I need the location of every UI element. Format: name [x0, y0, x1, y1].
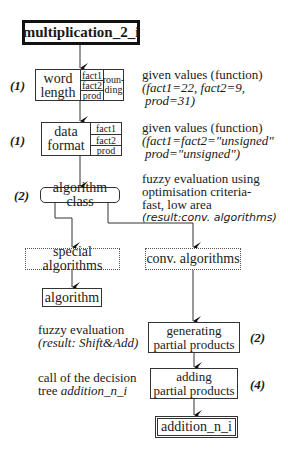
- word-length-label-1: word: [36, 72, 80, 86]
- generating-note: fuzzy evaluation (result: Shift&Add): [38, 323, 138, 349]
- word-length-note: given values (function) (fact1=22, fact2…: [142, 68, 263, 107]
- step-label-algorithm-class: (2): [14, 188, 29, 204]
- data-format-field-fact1: fact1: [90, 123, 121, 134]
- generating-partial-products-node: generating partial products: [148, 322, 240, 353]
- step-label-adding: (4): [250, 377, 265, 393]
- word-length-field-fact2: fact2: [80, 80, 103, 90]
- word-length-rounding: roun- ding: [103, 70, 123, 100]
- algorithm-class-node: algorithm class: [40, 187, 120, 203]
- algorithm-class-note: fuzzy evaluation using optimisation crit…: [142, 172, 277, 224]
- word-length-field-prod: prod: [80, 90, 103, 100]
- conv-algorithms-node: conv. algorithms: [145, 248, 241, 270]
- data-format-note: given values (function) (fact1=fact2="un…: [142, 121, 274, 160]
- algorithm-node: algorithm: [42, 288, 102, 307]
- word-length-node: word length fact1 fact2 prod roun- ding: [35, 69, 124, 101]
- step-label-data-format: (1): [10, 133, 25, 149]
- addition-node: addition_n_i: [155, 416, 238, 438]
- step-label-generating: (2): [250, 330, 265, 346]
- root-node-label: multiplication_2_i: [23, 24, 140, 41]
- special-algorithms-node: special algorithms: [25, 248, 120, 270]
- word-length-label-2: length: [36, 86, 80, 100]
- data-format-field-prod: prod: [90, 145, 121, 155]
- data-format-field-fact2: fact2: [90, 134, 121, 145]
- word-length-field-fact1: fact1: [80, 70, 103, 80]
- root-node-multiplication: multiplication_2_i: [22, 20, 140, 45]
- data-format-label-1: data: [42, 125, 90, 139]
- adding-note: call of the decision tree addition_n_i: [38, 371, 137, 397]
- adding-partial-products-node: adding partial products: [150, 368, 238, 399]
- step-label-word-length: (1): [10, 78, 25, 94]
- data-format-node: data format fact1 fact2 prod: [41, 122, 122, 156]
- data-format-label-2: format: [42, 139, 90, 153]
